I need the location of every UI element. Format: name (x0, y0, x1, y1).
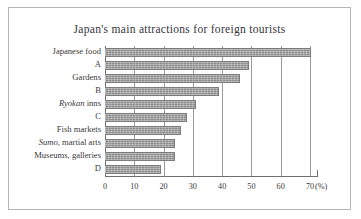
x-tick-label-20: 20 (159, 182, 167, 191)
bar-row: Japanese food (105, 46, 310, 59)
bar-row: Ryokan inns (105, 98, 310, 111)
category-label: Japanese food (53, 45, 101, 58)
bar (105, 87, 219, 96)
x-tick-label-0: 0 (103, 182, 107, 191)
bar (105, 100, 196, 109)
bar-row: Sumo, martial arts (105, 137, 310, 150)
bar (105, 152, 175, 161)
category-label: C (95, 110, 101, 123)
x-tick-label-50: 50 (247, 182, 255, 191)
x-tick-label-60: 60 (277, 182, 285, 191)
bar (105, 165, 161, 174)
x-axis-line (105, 176, 318, 177)
category-label: A (95, 58, 101, 71)
x-axis-end-tick (317, 170, 318, 177)
bar-row: C (105, 111, 310, 124)
bar (105, 139, 175, 148)
bar (105, 48, 311, 57)
bar (105, 74, 240, 83)
category-label: Museums, galleries (34, 149, 101, 162)
category-label: Fish markets (57, 123, 101, 136)
bar-row: Gardens (105, 72, 310, 85)
x-tick-label-70: 70 (306, 182, 314, 191)
chart-figure: Japan's main attractions for foreign tou… (8, 7, 351, 210)
bar (105, 126, 181, 135)
plot-area: Japanese foodAGardensBRyokan innsCFish m… (105, 46, 310, 176)
x-tick-label-10: 10 (130, 182, 138, 191)
bar-row: A (105, 59, 310, 72)
bar-row: Museums, galleries (105, 150, 310, 163)
category-label: D (95, 162, 101, 175)
bar-row: D (105, 163, 310, 176)
category-label: Sumo, martial arts (39, 136, 101, 149)
category-label: B (95, 84, 101, 97)
category-label: Gardens (72, 71, 101, 84)
x-tick-label-30: 30 (189, 182, 197, 191)
bar-row: B (105, 85, 310, 98)
bar-row: Fish markets (105, 124, 310, 137)
x-axis-unit-label: (%) (315, 182, 327, 191)
chart-title: Japan's main attractions for foreign tou… (9, 23, 350, 35)
bar (105, 61, 249, 70)
x-tick-label-40: 40 (218, 182, 226, 191)
category-label: Ryokan inns (59, 97, 101, 110)
gridline-70 (310, 46, 311, 176)
bar (105, 113, 187, 122)
